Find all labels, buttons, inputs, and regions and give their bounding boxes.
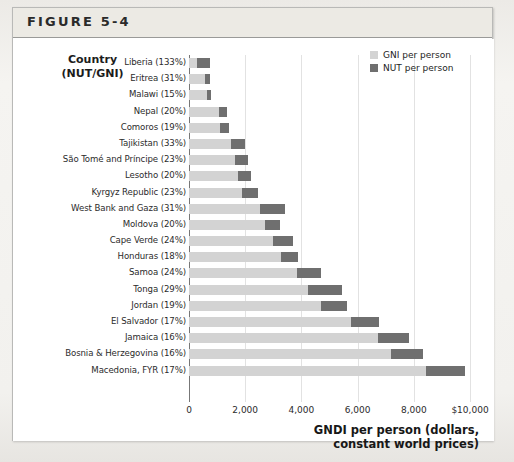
plot-area: Country (NUT/GNI) Liberia (133%)Eritrea …	[13, 39, 494, 441]
bar-segment-nut	[281, 252, 298, 262]
legend-item-nut: NUT per person	[370, 61, 453, 74]
x-axis-title-line2: constant world prices)	[239, 437, 479, 451]
bar-segment-gni	[189, 204, 260, 214]
stacked-bar	[189, 155, 470, 165]
bar-row: Tajikistan (33%)	[13, 136, 494, 152]
bar-segment-gni	[189, 220, 265, 230]
bar-segment-nut	[351, 317, 379, 327]
bar-segment-nut	[297, 268, 321, 278]
bar-row-label: Tonga (29%)	[133, 284, 186, 294]
bar-segment-gni	[189, 301, 321, 311]
bar-row: Jamaica (16%)	[13, 330, 494, 346]
figure-root: FIGURE 5-4 Country (NUT/GNI) Liberia (13…	[0, 0, 514, 462]
bar-segment-nut	[238, 171, 252, 181]
stacked-bar	[189, 74, 470, 84]
bar-rows: Liberia (133%)Eritrea (31%)Malawi (15%)N…	[13, 55, 494, 379]
legend-label-gni: GNI per person	[383, 50, 451, 60]
bar-segment-gni	[189, 366, 426, 376]
bar-segment-gni	[189, 155, 235, 165]
figure-number-title: FIGURE 5-4	[27, 14, 131, 29]
stacked-bar	[189, 188, 470, 198]
bar-row-label: Moldova (20%)	[123, 219, 186, 229]
bar-segment-gni	[189, 188, 242, 198]
stacked-bar	[189, 366, 470, 376]
bar-row: Kyrgyz Republic (23%)	[13, 185, 494, 201]
legend-swatch-nut	[370, 64, 378, 72]
bar-segment-nut	[205, 74, 210, 84]
bar-segment-nut	[273, 236, 293, 246]
bar-row-label: Honduras (18%)	[118, 251, 186, 261]
bar-segment-gni	[189, 317, 351, 327]
figure-titlebar: FIGURE 5-4	[13, 8, 492, 38]
bar-segment-gni	[189, 123, 220, 133]
x-tick-label: 2,000	[232, 405, 258, 415]
bar-segment-gni	[189, 349, 391, 359]
bar-row-label: Nepal (20%)	[134, 106, 186, 116]
bar-segment-gni	[189, 333, 378, 343]
x-axis-title: GNDI per person (dollars, constant world…	[239, 423, 479, 451]
bar-row: Bosnia & Herzegovina (16%)	[13, 346, 494, 362]
stacked-bar	[189, 204, 470, 214]
bar-segment-nut	[207, 90, 211, 100]
bar-row-label: West Bank and Gaza (31%)	[71, 203, 186, 213]
bar-row: Cape Verde (24%)	[13, 233, 494, 249]
x-tick-label: 4,000	[289, 405, 315, 415]
bar-row-label: Macedonia, FYR (17%)	[91, 365, 186, 375]
bar-row: West Bank and Gaza (31%)	[13, 201, 494, 217]
bar-row: Lesotho (20%)	[13, 168, 494, 184]
stacked-bar	[189, 317, 470, 327]
stacked-bar	[189, 220, 470, 230]
stacked-bar	[189, 171, 470, 181]
bar-row-label: Comoros (19%)	[121, 122, 186, 132]
bar-row-label: Malawi (15%)	[129, 89, 186, 99]
bar-segment-gni	[189, 139, 231, 149]
x-axis-ticks: 02,0004,0006,0008,000$10,000	[189, 405, 470, 421]
bar-row-label: Eritrea (31%)	[130, 73, 186, 83]
chart-legend: GNI per personNUT per person	[370, 48, 453, 74]
stacked-bar	[189, 139, 470, 149]
bar-segment-nut	[219, 107, 228, 117]
bar-segment-gni	[189, 58, 197, 68]
stacked-bar	[189, 107, 470, 117]
bar-segment-nut	[391, 349, 423, 359]
figure-card: FIGURE 5-4 Country (NUT/GNI) Liberia (13…	[12, 7, 493, 441]
stacked-bar	[189, 268, 470, 278]
bar-row: Moldova (20%)	[13, 217, 494, 233]
bar-segment-nut	[235, 155, 247, 165]
x-tick-label: 6,000	[345, 405, 371, 415]
legend-label-nut: NUT per person	[383, 63, 453, 73]
bar-row: Tonga (29%)	[13, 282, 494, 298]
bar-row-label: Kyrgyz Republic (23%)	[92, 187, 186, 197]
legend-swatch-gni	[370, 51, 378, 59]
x-axis-title-line1: GNDI per person (dollars,	[239, 423, 479, 437]
bar-segment-nut	[220, 123, 228, 133]
x-tick-label: $10,000	[451, 405, 488, 415]
bar-row-label: Jamaica (16%)	[125, 332, 186, 342]
stacked-bar	[189, 90, 470, 100]
bar-segment-gni	[189, 107, 219, 117]
bar-segment-gni	[189, 236, 273, 246]
bar-row-label: Samoa (24%)	[129, 267, 186, 277]
bar-segment-gni	[189, 171, 238, 181]
bar-row: Honduras (18%)	[13, 249, 494, 265]
bar-segment-gni	[189, 285, 308, 295]
bar-row: Jordan (19%)	[13, 298, 494, 314]
bar-row-label: São Tomé and Príncipe (23%)	[63, 154, 186, 164]
bar-row-label: Lesotho (20%)	[125, 170, 186, 180]
bar-segment-nut	[426, 366, 465, 376]
bar-row-label: Cape Verde (24%)	[110, 235, 186, 245]
x-tick-label: 8,000	[401, 405, 427, 415]
stacked-bar	[189, 236, 470, 246]
bar-segment-nut	[197, 58, 210, 68]
stacked-bar	[189, 252, 470, 262]
bar-segment-gni	[189, 252, 281, 262]
bar-segment-gni	[189, 268, 297, 278]
bar-segment-gni	[189, 90, 207, 100]
bar-row: Malawi (15%)	[13, 87, 494, 103]
bar-row-label: Jordan (19%)	[131, 300, 186, 310]
bar-segment-nut	[265, 220, 280, 230]
bar-row: Comoros (19%)	[13, 120, 494, 136]
bar-segment-nut	[321, 301, 347, 311]
bar-row: Nepal (20%)	[13, 104, 494, 120]
bar-row: Macedonia, FYR (17%)	[13, 363, 494, 379]
